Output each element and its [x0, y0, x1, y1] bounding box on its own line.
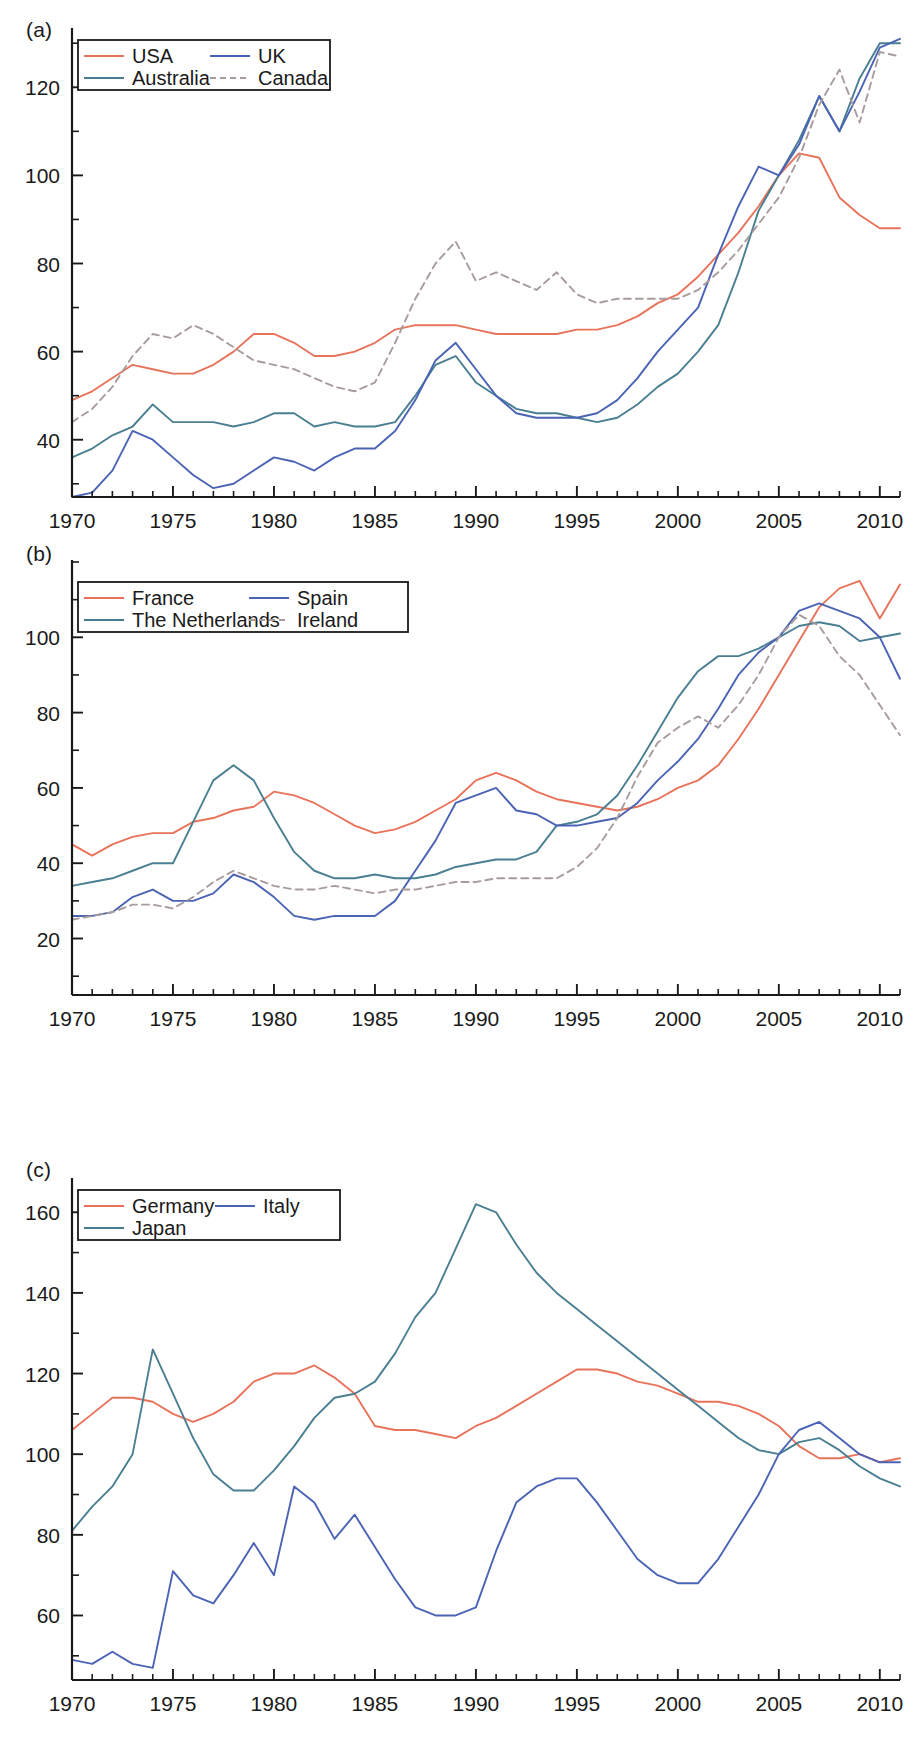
legend-label-usa: USA [132, 45, 174, 67]
y-tick-label: 60 [37, 777, 60, 800]
legend-label-japan: Japan [132, 1217, 187, 1239]
x-tick-label: 1975 [150, 509, 197, 532]
series-line-germany [72, 1365, 900, 1462]
panel-a: (a) 406080100120197019751980198519901995… [0, 0, 923, 600]
legend: GermanyItalyJapan [78, 1190, 340, 1240]
x-tick-label: 1985 [352, 1692, 399, 1715]
y-tick-label: 100 [25, 626, 60, 649]
x-tick-label: 2005 [755, 509, 802, 532]
y-tick-label: 40 [37, 852, 60, 875]
legend: FranceSpainThe NetherlandsIreland [78, 582, 408, 632]
y-tick-label: 140 [25, 1282, 60, 1305]
y-tick-label: 60 [37, 1604, 60, 1627]
legend-label-australia: Australia [132, 67, 211, 89]
panel-a-chart: 4060801001201970197519801985199019952000… [0, 0, 923, 600]
x-tick-label: 1980 [251, 509, 298, 532]
x-tick-label: 1970 [49, 1692, 96, 1715]
series-line-australia [72, 43, 900, 457]
figure-root: (a) 406080100120197019751980198519901995… [0, 0, 923, 1737]
y-tick-label: 60 [37, 341, 60, 364]
legend-label-uk: UK [258, 45, 286, 67]
x-tick-label: 1995 [554, 509, 601, 532]
x-tick-label: 1985 [352, 1007, 399, 1030]
series-line-japan [72, 1204, 900, 1531]
series-line-ireland [72, 615, 900, 920]
legend-label-italy: Italy [263, 1195, 300, 1217]
x-tick-label: 2010 [856, 509, 903, 532]
x-tick-label: 1980 [251, 1007, 298, 1030]
y-tick-label: 40 [37, 429, 60, 452]
x-tick-label: 1975 [150, 1007, 197, 1030]
x-tick-label: 1970 [49, 509, 96, 532]
y-tick-label: 120 [25, 1363, 60, 1386]
y-tick-label: 100 [25, 1443, 60, 1466]
x-tick-label: 1995 [554, 1692, 601, 1715]
x-tick-label: 2000 [654, 509, 701, 532]
x-tick-label: 2000 [654, 1692, 701, 1715]
x-tick-label: 2005 [755, 1692, 802, 1715]
x-tick-label: 1990 [453, 509, 500, 532]
x-tick-label: 2005 [755, 1007, 802, 1030]
legend-label-germany: Germany [132, 1195, 214, 1217]
legend-label-spain: Spain [297, 587, 348, 609]
y-tick-label: 100 [25, 164, 60, 187]
panel-c: (c) 608010012014016019701975198019851990… [0, 1080, 923, 1737]
y-tick-label: 80 [37, 253, 60, 276]
panel-b-chart: 2040608010019701975198019851990199520002… [0, 540, 923, 1080]
x-tick-label: 1990 [453, 1007, 500, 1030]
series-line-spain [72, 603, 900, 919]
y-tick-label: 20 [37, 928, 60, 951]
x-tick-label: 1980 [251, 1692, 298, 1715]
x-tick-label: 2000 [654, 1007, 701, 1030]
panel-b: (b) 204060801001970197519801985199019952… [0, 540, 923, 1080]
legend-label-canada: Canada [258, 67, 329, 89]
legend-label-france: France [132, 587, 194, 609]
series-line-italy [72, 1422, 900, 1668]
y-tick-label: 120 [25, 76, 60, 99]
series-line-canada [72, 52, 900, 422]
x-tick-label: 1995 [554, 1007, 601, 1030]
series-line-uk [72, 39, 900, 497]
x-tick-label: 2010 [856, 1692, 903, 1715]
x-tick-label: 1975 [150, 1692, 197, 1715]
y-tick-label: 80 [37, 702, 60, 725]
panel-a-label: (a) [26, 18, 52, 42]
series-line-the-netherlands [72, 622, 900, 886]
panel-c-label: (c) [26, 1158, 51, 1182]
y-tick-label: 80 [37, 1524, 60, 1547]
legend-label-ireland: Ireland [297, 609, 358, 631]
x-tick-label: 1985 [352, 509, 399, 532]
panel-c-chart: 6080100120140160197019751980198519901995… [0, 1080, 923, 1737]
legend-label-the-netherlands: The Netherlands [132, 609, 280, 631]
x-tick-label: 2010 [856, 1007, 903, 1030]
x-tick-label: 1970 [49, 1007, 96, 1030]
y-tick-label: 160 [25, 1201, 60, 1224]
x-tick-label: 1990 [453, 1692, 500, 1715]
legend: USAUKAustraliaCanada [78, 40, 330, 90]
panel-b-label: (b) [26, 542, 52, 566]
